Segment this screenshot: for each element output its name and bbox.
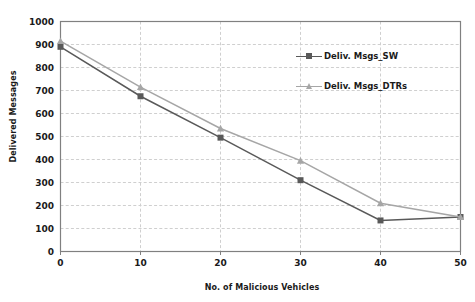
x-tick-label: 20 — [201, 258, 241, 268]
x-tick-label: 0 — [41, 258, 81, 268]
x-axis-tick-labels: 01020304050 — [0, 0, 475, 302]
x-tick-label: 50 — [441, 258, 475, 268]
x-tick-label: 30 — [281, 258, 321, 268]
chart-container: 01002003004005006007008009001000 0102030… — [0, 0, 475, 302]
x-tick-label: 10 — [121, 258, 161, 268]
x-tick-label: 40 — [361, 258, 401, 268]
x-axis-title: No. of Malicious Vehicles — [60, 283, 464, 292]
y-axis-title: Delivered Messages — [9, 52, 18, 182]
